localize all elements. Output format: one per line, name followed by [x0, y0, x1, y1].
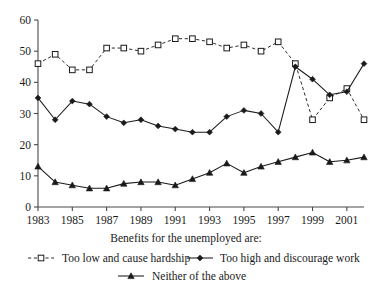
data-point-diamond — [241, 107, 247, 113]
data-point-square — [241, 42, 247, 48]
x-axis: 1983198519871989199119931995199719992001 — [27, 207, 365, 226]
data-point-square — [70, 67, 76, 73]
chart-series-group — [35, 36, 367, 191]
data-point-square — [207, 39, 213, 45]
legend-item[interactable]: Too high and discourage work — [187, 252, 360, 265]
chart-legend: Too low and cause hardshipToo high and d… — [28, 252, 360, 282]
legend-label: Neither of the above — [152, 270, 246, 282]
data-point-square — [35, 61, 41, 67]
data-point-square — [361, 117, 367, 123]
data-point-square — [258, 48, 264, 54]
data-point-square — [52, 51, 58, 57]
x-tick-label: 1983 — [27, 214, 50, 226]
legend-item[interactable]: Too low and cause hardship — [28, 252, 190, 265]
x-tick-label: 1985 — [61, 214, 84, 226]
data-point-square — [224, 45, 230, 51]
data-point-square — [121, 45, 127, 51]
x-tick-label: 1997 — [267, 214, 290, 226]
legend-label: Too high and discourage work — [220, 252, 360, 265]
data-point-triangle — [206, 170, 212, 176]
series-2 — [35, 61, 367, 135]
data-point-triangle — [361, 154, 367, 160]
y-tick-label: 10 — [20, 170, 32, 182]
data-point-square — [275, 39, 281, 45]
data-point-diamond — [155, 123, 161, 129]
y-tick-label: 30 — [20, 108, 32, 120]
x-tick-label: 1991 — [164, 214, 187, 226]
data-point-triangle — [224, 160, 230, 166]
x-tick-label: 2001 — [335, 214, 358, 226]
data-point-square — [155, 42, 161, 48]
data-point-square — [87, 67, 93, 73]
series-1 — [35, 36, 367, 123]
x-axis-title-text: Benefits for the unemployed are: — [110, 232, 261, 245]
x-axis-title: Benefits for the unemployed are: — [110, 232, 261, 245]
legend-item[interactable]: Neither of the above — [118, 270, 246, 282]
x-tick-label: 1995 — [232, 214, 255, 226]
data-point-triangle — [309, 149, 315, 155]
data-point-diamond — [190, 129, 196, 135]
data-point-diamond — [121, 120, 127, 126]
series-line — [38, 152, 364, 188]
y-axis: 0102030405060 — [20, 14, 39, 213]
y-tick-label: 20 — [20, 139, 32, 151]
data-point-square — [38, 255, 44, 261]
y-tick-label: 40 — [20, 76, 32, 88]
data-point-triangle — [35, 163, 41, 169]
chart-figure: 0102030405060 19831985198719891991199319… — [0, 0, 372, 291]
x-tick-label: 1999 — [301, 214, 324, 226]
data-point-square — [104, 45, 110, 51]
legend-label: Too low and cause hardship — [62, 252, 190, 265]
data-point-square — [190, 36, 196, 42]
data-point-diamond — [361, 61, 367, 67]
data-point-diamond — [197, 255, 203, 261]
x-tick-label: 1987 — [95, 214, 118, 226]
y-tick-label: 60 — [20, 14, 32, 26]
data-point-diamond — [138, 117, 144, 123]
series-3 — [35, 149, 367, 191]
x-tick-label: 1989 — [129, 214, 152, 226]
data-point-square — [310, 117, 316, 123]
y-tick-label: 50 — [20, 45, 32, 57]
y-tick-label: 0 — [25, 201, 31, 213]
data-point-square — [172, 36, 178, 42]
x-tick-label: 1993 — [198, 214, 221, 226]
data-point-diamond — [172, 126, 178, 132]
data-point-square — [138, 48, 144, 54]
line-chart: 0102030405060 19831985198719891991199319… — [0, 0, 372, 291]
